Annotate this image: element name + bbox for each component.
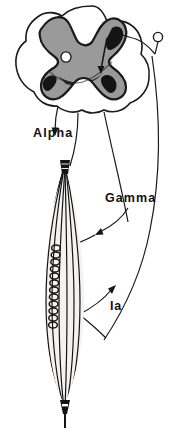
label-ia: Ia: [110, 300, 122, 313]
muscle-spindle-reflex-diagram: [0, 0, 185, 435]
label-gamma: Gamma: [105, 192, 156, 205]
spinal-cord-cross-section: [16, 6, 149, 113]
label-alpha: Alpha: [33, 127, 73, 140]
central-canal: [61, 52, 71, 62]
ganglion-stalk: [155, 42, 158, 54]
muscle-spindle: [40, 160, 86, 428]
ganglion-cell-body-icon: [153, 32, 162, 41]
lower-tendon-notch: [62, 404, 68, 406]
upper-tendon: [60, 160, 70, 174]
lower-tendon: [60, 400, 70, 414]
gamma-motor-axon: [104, 112, 128, 222]
gamma-terminal-branch: [100, 208, 128, 232]
gamma-motor-arrowhead: [95, 228, 104, 235]
